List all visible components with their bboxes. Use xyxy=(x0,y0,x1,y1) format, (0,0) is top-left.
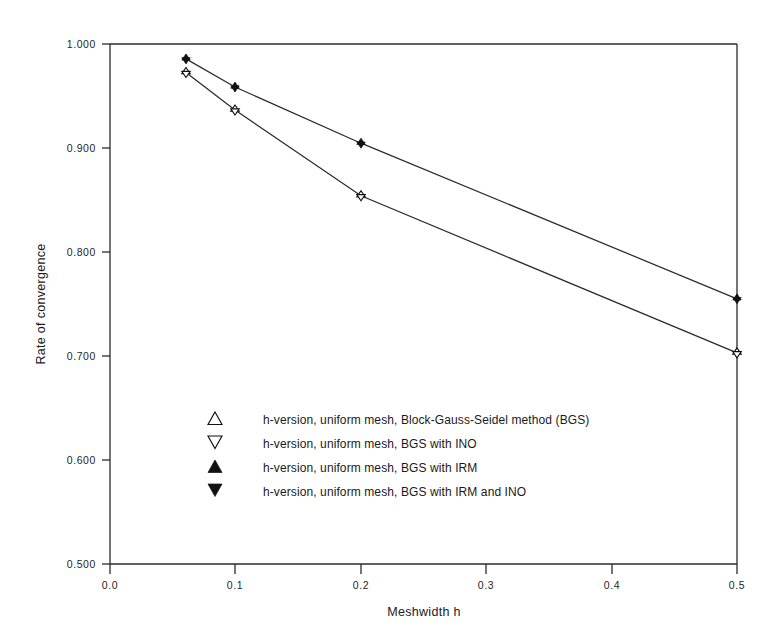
x-axis-title: Meshwidth h xyxy=(387,605,460,619)
x-tick-label-04: 0.4 xyxy=(604,579,620,591)
y-tick-label-0500: 0.500 xyxy=(67,558,96,570)
legend-label-bgs-irm: h-version, uniform mesh, BGS with IRM xyxy=(263,461,477,475)
x-tick-label-00: 0.0 xyxy=(102,579,118,591)
y-tick-marks xyxy=(102,44,110,564)
data-point-marker xyxy=(733,294,741,304)
x-tick-labels: 0.0 0.1 0.2 0.3 0.4 0.5 xyxy=(102,579,745,591)
y-tick-label-1000: 1.000 xyxy=(67,38,96,50)
x-tick-label-02: 0.2 xyxy=(353,579,369,591)
y-tick-label-0800: 0.800 xyxy=(67,246,96,258)
markers-lower-series xyxy=(182,68,741,358)
legend-label-bgs-irm-ino: h-version, uniform mesh, BGS with IRM an… xyxy=(263,485,526,499)
x-tick-label-03: 0.3 xyxy=(478,579,494,591)
triangle-down-filled-icon xyxy=(208,484,222,497)
legend: h-version, uniform mesh, Block-Gauss-Sei… xyxy=(208,412,589,499)
data-point-marker xyxy=(182,68,190,78)
legend-entry-bgs-irm: h-version, uniform mesh, BGS with IRM xyxy=(208,460,477,475)
x-tick-marks xyxy=(110,564,737,574)
data-line-lower xyxy=(186,73,737,353)
y-tick-label-0900: 0.900 xyxy=(67,142,96,154)
data-point-marker xyxy=(733,348,741,358)
data-point-marker xyxy=(357,191,365,201)
data-point-marker xyxy=(357,138,365,148)
data-point-marker xyxy=(231,105,239,115)
legend-entry-bgs-irm-ino: h-version, uniform mesh, BGS with IRM an… xyxy=(208,484,526,499)
y-tick-label-0600: 0.600 xyxy=(67,454,96,466)
y-axis-title: Rate of convergence xyxy=(34,243,48,364)
triangle-up-open-icon xyxy=(208,412,222,425)
legend-entry-bgs-ino: h-version, uniform mesh, BGS with INO xyxy=(208,436,477,451)
y-tick-label-0700: 0.700 xyxy=(67,350,96,362)
figure-container: 1.000 0.900 0.800 0.700 0.600 0.500 0.0 … xyxy=(0,0,776,634)
y-tick-labels: 1.000 0.900 0.800 0.700 0.600 0.500 xyxy=(67,38,96,570)
legend-label-bgs: h-version, uniform mesh, Block-Gauss-Sei… xyxy=(263,413,589,427)
x-tick-label-05: 0.5 xyxy=(729,579,745,591)
data-point-marker xyxy=(231,82,239,92)
x-tick-label-01: 0.1 xyxy=(227,579,243,591)
data-point-marker xyxy=(182,54,190,64)
data-line-upper xyxy=(186,59,737,299)
triangle-up-filled-icon xyxy=(208,460,222,473)
legend-label-bgs-ino: h-version, uniform mesh, BGS with INO xyxy=(263,437,477,451)
triangle-down-open-icon xyxy=(208,436,222,449)
convergence-chart: 1.000 0.900 0.800 0.700 0.600 0.500 0.0 … xyxy=(0,0,776,634)
legend-entry-bgs: h-version, uniform mesh, Block-Gauss-Sei… xyxy=(208,412,589,427)
